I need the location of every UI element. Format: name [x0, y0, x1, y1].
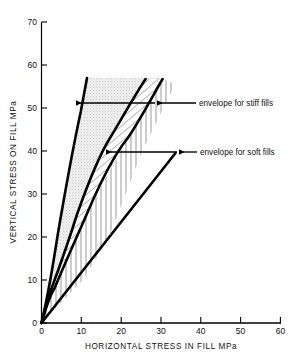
x-axis-title: HORIZONTAL STRESS IN FILL MPa — [85, 342, 237, 351]
chart-figure: 70 60 50 40 30 20 10 0 0 10 20 30 40 50 … — [0, 0, 302, 352]
x-tick-label: 50 — [236, 326, 246, 336]
chart-background — [0, 0, 302, 352]
x-tick-label: 10 — [77, 326, 87, 336]
y-tick-label: 70 — [28, 17, 38, 27]
y-tick-label: 50 — [28, 103, 38, 113]
stress-envelope-chart: 70 60 50 40 30 20 10 0 0 10 20 30 40 50 … — [0, 0, 302, 352]
x-tick-label: 40 — [196, 326, 206, 336]
y-tick-label: 60 — [28, 60, 38, 70]
y-tick-label: 20 — [28, 232, 38, 242]
y-axis-title: VERTICAL STRESS ON FILL MPa — [9, 101, 18, 244]
y-tick-label: 0 — [32, 318, 37, 328]
y-tick-label: 10 — [28, 275, 38, 285]
annotation-soft-label: envelope for soft fills — [200, 148, 275, 157]
x-tick-label: 0 — [39, 326, 44, 336]
x-tick-label: 60 — [276, 326, 286, 336]
y-tick-label: 40 — [28, 146, 38, 156]
x-tick-label: 20 — [116, 326, 126, 336]
y-tick-label: 30 — [28, 189, 38, 199]
x-tick-label: 30 — [156, 326, 166, 336]
annotation-stiff-label: envelope for stiff fills — [199, 99, 273, 108]
